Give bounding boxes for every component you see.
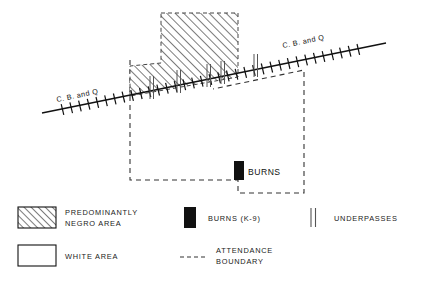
- black-box-icon: [184, 207, 196, 228]
- railroad-label-right: C. B. and Q: [282, 33, 325, 50]
- legend-label-burns: BURNS (K-9): [208, 214, 261, 223]
- burns-school-marker: [234, 161, 244, 180]
- legend: PREDOMINANTLY NEGRO AREA WHITE AREA BURN…: [18, 207, 398, 266]
- legend-label-white-area: WHITE AREA: [65, 252, 118, 261]
- figure-root: C. B. and Q C. B. and Q BURNS PREDOMINAN…: [0, 0, 426, 290]
- hatched-box-icon: [18, 207, 56, 228]
- burns-school-label: BURNS: [248, 167, 281, 177]
- legend-item-white-area: WHITE AREA: [18, 245, 118, 266]
- legend-item-underpasses: UNDERPASSES: [311, 208, 398, 227]
- legend-label-negro-area-line1: PREDOMINANTLY: [65, 208, 138, 217]
- double-vertical-line-icon: [311, 208, 316, 227]
- railroad-label-left: C. B. and Q: [56, 87, 99, 104]
- legend-label-attendance-line1: ATTENDANCE: [216, 246, 273, 255]
- legend-item-burns: BURNS (K-9): [184, 207, 261, 228]
- legend-item-attendance-boundary: ATTENDANCE BOUNDARY: [180, 246, 273, 266]
- white-box-icon: [18, 245, 56, 266]
- legend-label-underpasses: UNDERPASSES: [334, 214, 398, 223]
- legend-label-attendance-line2: BOUNDARY: [216, 257, 264, 266]
- map-figure: C. B. and Q C. B. and Q BURNS PREDOMINAN…: [0, 0, 426, 290]
- legend-label-negro-area-line2: NEGRO AREA: [65, 219, 121, 228]
- legend-item-negro-area: PREDOMINANTLY NEGRO AREA: [18, 207, 138, 228]
